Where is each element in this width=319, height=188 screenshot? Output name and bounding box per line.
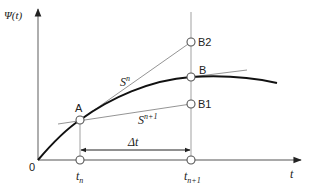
point-b1-marker — [187, 100, 195, 108]
point-b2-marker — [187, 38, 195, 46]
solution-curve — [38, 76, 277, 160]
time-step-diagram: Ψ(t) t 0 A B B1 B2 Sn Sn+1 Δt tn tn+1 — [0, 0, 319, 188]
t-n1-marker — [187, 156, 195, 164]
slope-sn1-label: Sn+1 — [138, 112, 157, 127]
point-b1-label: B1 — [198, 98, 211, 110]
slope-sn-label: Sn — [120, 74, 130, 89]
point-b2-label: B2 — [198, 36, 211, 48]
t-n1-label: tn+1 — [184, 169, 201, 185]
point-a-label: A — [75, 102, 83, 114]
point-b-label: B — [199, 64, 206, 76]
t-n-marker — [76, 156, 84, 164]
y-axis-label: Ψ(t) — [4, 9, 22, 22]
origin-label: 0 — [29, 161, 35, 173]
point-b-marker — [187, 73, 195, 81]
t-n-label: tn — [76, 169, 83, 185]
x-axis-label: t — [290, 167, 294, 181]
point-a-marker — [76, 116, 84, 124]
delta-t-label: Δt — [127, 135, 139, 149]
